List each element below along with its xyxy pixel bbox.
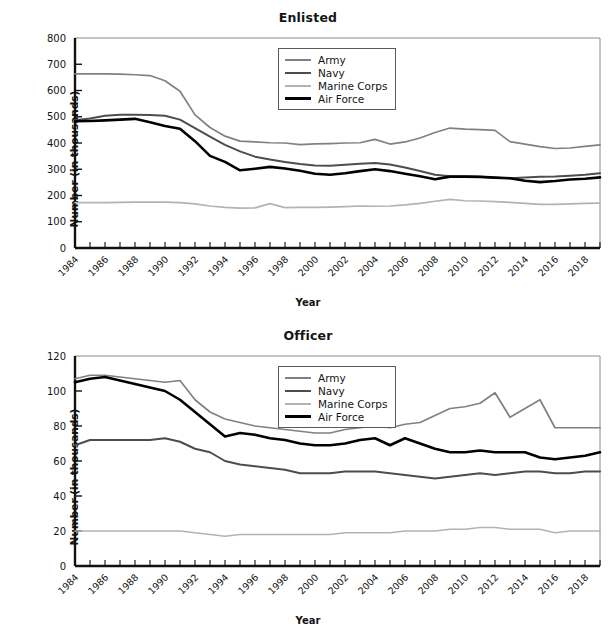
x-tick-label: 2004 <box>356 572 381 597</box>
x-tick-label: 2008 <box>416 254 441 279</box>
legend-swatch-army <box>285 59 311 61</box>
x-axis-title-enlisted: Year <box>0 297 616 308</box>
legend-swatch-navy <box>285 390 311 392</box>
legend-item-army[interactable]: Army <box>285 371 387 384</box>
y-tick-label: 200 <box>47 190 66 201</box>
y-tick-label: 20 <box>53 526 66 537</box>
x-tick-label: 2012 <box>476 572 501 597</box>
y-tick-label: 60 <box>53 456 66 467</box>
y-tick-label: 100 <box>47 216 66 227</box>
legend-item-navy[interactable]: Navy <box>285 66 387 79</box>
legend-label-air-force: Air Force <box>318 93 364 105</box>
y-tick-label: 80 <box>53 421 66 432</box>
legend-swatch-navy <box>285 72 311 74</box>
legend-item-air-force[interactable]: Air Force <box>285 92 387 105</box>
x-tick-label: 2006 <box>386 254 411 279</box>
x-tick-label: 1998 <box>266 572 291 597</box>
y-tick-label: 300 <box>47 164 66 175</box>
x-tick-label: 2006 <box>386 572 411 597</box>
legend-item-navy[interactable]: Navy <box>285 384 387 397</box>
legend-swatch-marine-corps <box>285 403 311 405</box>
legend-item-army[interactable]: Army <box>285 53 387 66</box>
x-tick-label: 1994 <box>206 254 231 279</box>
legend-swatch-army <box>285 377 311 379</box>
y-tick-label: 0 <box>60 561 66 572</box>
x-tick-label: 1994 <box>206 572 231 597</box>
x-tick-label: 2014 <box>506 254 531 279</box>
y-tick-label: 800 <box>47 33 66 44</box>
x-tick-label: 2016 <box>536 254 561 279</box>
legend-label-air-force: Air Force <box>318 411 364 423</box>
y-tick-label: 40 <box>53 491 66 502</box>
series-line-marine-corps <box>75 528 600 537</box>
y-tick-label: 120 <box>47 351 66 362</box>
legend-label-navy: Navy <box>318 67 345 79</box>
x-tick-label: 2008 <box>416 572 441 597</box>
legend-enlisted: Army Navy Marine Corps Air Force <box>278 48 396 110</box>
legend-officer: Army Navy Marine Corps Air Force <box>278 366 396 428</box>
x-tick-label: 2012 <box>476 254 501 279</box>
legend-label-navy: Navy <box>318 385 345 397</box>
y-tick-label: 0 <box>60 243 66 254</box>
x-tick-label: 2010 <box>446 254 471 279</box>
x-tick-label: 2000 <box>296 254 321 279</box>
x-tick-label: 1998 <box>266 254 291 279</box>
x-tick-label: 2014 <box>506 572 531 597</box>
y-tick-label: 700 <box>47 59 66 70</box>
x-tick-label: 2018 <box>566 572 591 597</box>
legend-label-army: Army <box>318 372 346 384</box>
series-line-air-force <box>75 119 600 182</box>
chart-panel-officer: Officer Number (in thousands) 0204060801… <box>0 318 616 636</box>
figure-container: Enlisted Number (in thousands) 010020030… <box>0 0 616 636</box>
y-tick-label: 500 <box>47 111 66 122</box>
x-axis-title-officer: Year <box>0 615 616 626</box>
x-tick-label: 2016 <box>536 572 561 597</box>
legend-item-marine-corps[interactable]: Marine Corps <box>285 79 387 92</box>
x-tick-label: 2010 <box>446 572 471 597</box>
chart-title-officer: Officer <box>0 328 616 343</box>
y-tick-label: 600 <box>47 85 66 96</box>
x-tick-label: 2018 <box>566 254 591 279</box>
x-tick-label: 1986 <box>86 254 111 279</box>
chart-panel-enlisted: Enlisted Number (in thousands) 010020030… <box>0 0 616 318</box>
x-tick-label: 1984 <box>56 254 81 279</box>
legend-item-marine-corps[interactable]: Marine Corps <box>285 397 387 410</box>
legend-label-marine-corps: Marine Corps <box>318 398 387 410</box>
x-tick-label: 1992 <box>176 572 201 597</box>
legend-swatch-air-force <box>285 415 311 418</box>
x-tick-label: 1988 <box>116 572 141 597</box>
legend-label-army: Army <box>318 54 346 66</box>
x-tick-label: 1990 <box>146 572 171 597</box>
x-tick-label: 1996 <box>236 572 261 597</box>
legend-label-marine-corps: Marine Corps <box>318 80 387 92</box>
x-tick-label: 1986 <box>86 572 111 597</box>
x-tick-label: 1988 <box>116 254 141 279</box>
y-tick-label: 400 <box>47 138 66 149</box>
y-tick-label: 100 <box>47 386 66 397</box>
x-tick-label: 2002 <box>326 254 351 279</box>
x-tick-label: 1984 <box>56 572 81 597</box>
x-tick-label: 1996 <box>236 254 261 279</box>
chart-title-enlisted: Enlisted <box>0 10 616 25</box>
x-tick-label: 1990 <box>146 254 171 279</box>
x-tick-label: 2000 <box>296 572 321 597</box>
legend-swatch-air-force <box>285 97 311 100</box>
legend-item-air-force[interactable]: Air Force <box>285 410 387 423</box>
x-tick-label: 2004 <box>356 254 381 279</box>
x-tick-label: 1992 <box>176 254 201 279</box>
legend-swatch-marine-corps <box>285 85 311 87</box>
series-line-marine-corps <box>75 199 600 208</box>
x-tick-label: 2002 <box>326 572 351 597</box>
